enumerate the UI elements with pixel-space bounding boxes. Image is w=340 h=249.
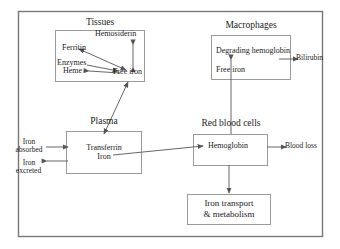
plasma-item-iron: Iron: [70, 153, 138, 161]
iron-transport-line2: & metabolism: [188, 210, 270, 219]
tissues-item-hemosiderin: Hemosiderin: [95, 30, 136, 38]
plasma-title: Plasma: [66, 117, 142, 127]
tissues-title: Tissues: [55, 18, 145, 28]
external-label-blood-loss: Blood loss: [285, 142, 317, 150]
macrophages-item-free-iron: Free iron: [216, 66, 245, 74]
diagram-lines-layer: [0, 0, 340, 249]
red-blood-cells-item-hemoglobin: Hemoglobin: [208, 142, 248, 150]
tissues-item-heme: Heme: [63, 67, 82, 75]
iron-metabolism-diagram: Tissues Hemosiderin Ferritin Enzymes Hem…: [0, 0, 340, 249]
red-blood-cells-title: Red blood cells: [186, 119, 276, 129]
macrophages-title: Macrophages: [206, 21, 296, 31]
external-label-iron-absorbed-line2: absorbed: [10, 146, 48, 154]
macrophages-item-degrading-hemoglobin: Degrading hemoglobin: [216, 47, 290, 55]
external-label-bilirubin: Bilirubin: [296, 54, 323, 62]
external-label-iron-excreted-line2: excreted: [9, 167, 48, 175]
tissues-item-free-iron: Free iron: [113, 68, 142, 76]
tissues-item-ferritin: Ferritin: [62, 44, 86, 52]
iron-transport-line1: Iron transport: [188, 199, 270, 208]
